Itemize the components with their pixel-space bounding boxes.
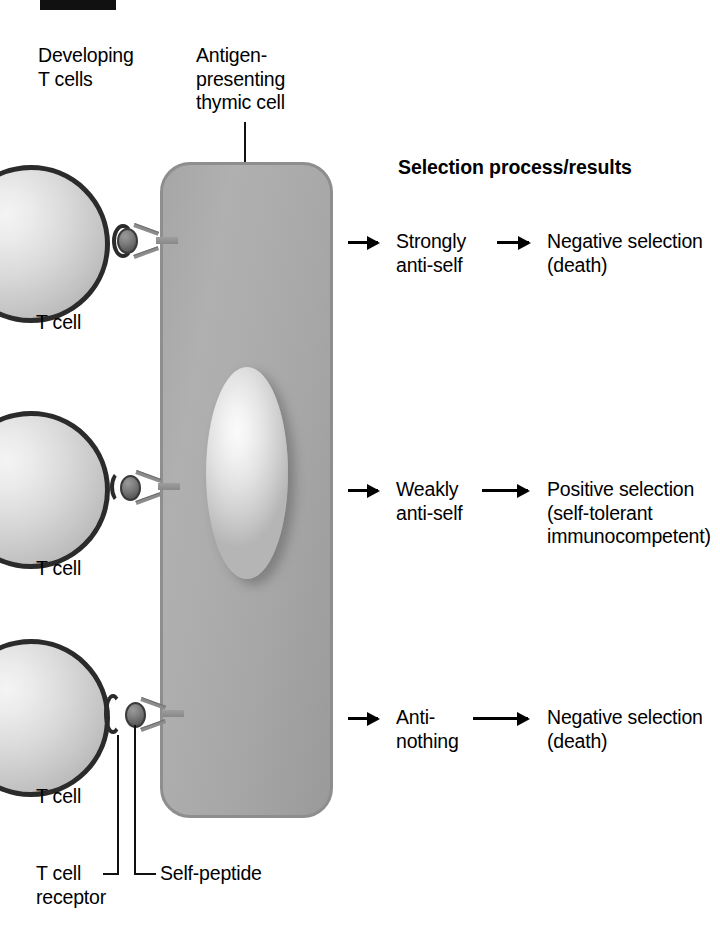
thymic-cell-leader-line [244, 122, 246, 166]
mhc-prong-lower-row-1 [133, 246, 159, 259]
self-peptide-icon-row-2 [120, 475, 141, 501]
diagram-canvas: Developing T cells Antigen- presenting t… [0, 0, 720, 945]
t-cell-receptor-icon-row-3 [104, 694, 122, 734]
t-cell-receptor-callout-label: T cell receptor [36, 862, 106, 909]
mhc-stalk-row-3 [162, 710, 184, 717]
t-cell-label-row-2: T cell [36, 557, 81, 581]
outcome-label-row-3: Negative selection (death) [547, 706, 703, 753]
self-peptide-callout-label: Self-peptide [160, 862, 262, 886]
arrow-row-2-first [348, 489, 378, 492]
outcome-label-row-2: Positive selection (self-tolerant immuno… [547, 478, 711, 549]
t-cell-row-1 [0, 165, 110, 323]
affinity-label-row-2: Weakly anti-self [396, 478, 462, 525]
t-cell-label-row-1: T cell [36, 311, 81, 335]
mhc-stalk-row-1 [156, 237, 178, 244]
antigen-presenting-thymic-cell-label: Antigen- presenting thymic cell [196, 44, 285, 115]
mhc-stalk-row-2 [158, 483, 180, 490]
outcome-label-row-1: Negative selection (death) [547, 230, 703, 277]
mhc-prong-upper-row-1 [133, 223, 159, 236]
arrow-row-2-second [482, 489, 528, 492]
arrow-row-1-second [497, 241, 529, 244]
affinity-label-row-3: Anti- nothing [396, 706, 459, 753]
arrow-row-3-first [348, 717, 378, 720]
t-cell-label-row-3: T cell [36, 785, 81, 809]
page-marker-bar [40, 0, 116, 10]
arrow-row-3-second [473, 717, 528, 720]
t-cell-row-3 [0, 639, 110, 797]
affinity-label-row-1: Strongly anti-self [396, 230, 466, 277]
developing-t-cells-label: Developing T cells [38, 44, 134, 91]
arrow-row-1-first [348, 241, 378, 244]
t-cell-receptor-leader-vertical [117, 735, 119, 875]
self-peptide-leader-elbow [134, 873, 156, 875]
self-peptide-icon-row-1 [117, 228, 138, 254]
self-peptide-leader-vertical [134, 725, 136, 875]
thymic-cell-nucleus [206, 367, 288, 579]
selection-process-header: Selection process/results [398, 156, 632, 180]
t-cell-row-2 [0, 411, 110, 569]
